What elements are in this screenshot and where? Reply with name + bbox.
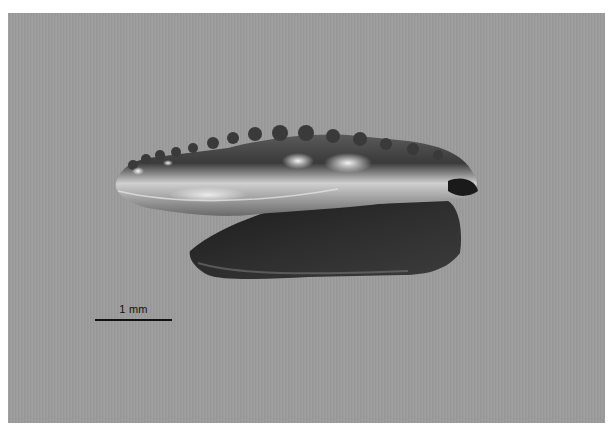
scale-bar-line	[95, 319, 172, 321]
scale-bar: 1 mm	[95, 303, 172, 333]
specimen-photo: 1 mm	[8, 13, 605, 423]
conodont-specimen	[8, 13, 605, 423]
scale-bar-label: 1 mm	[95, 303, 172, 315]
